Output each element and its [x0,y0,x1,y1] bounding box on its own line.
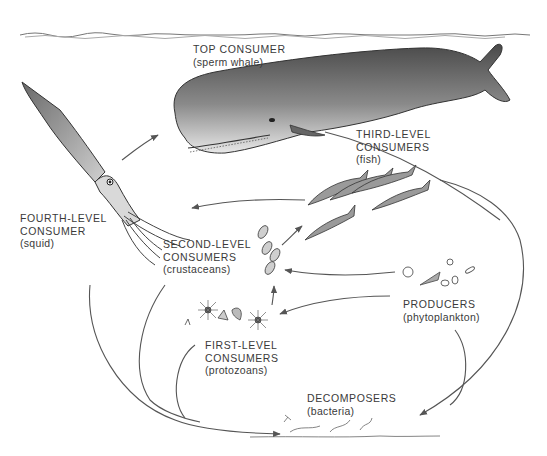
node-subtitle: (crustaceans) [163,263,251,276]
node-decomposers: DECOMPOSERS (bacteria) [307,392,396,417]
node-subtitle: (fish) [356,153,431,166]
node-second-level-consumers: SECOND-LEVEL CONSUMERS (crustaceans) [163,238,251,276]
node-title: DECOMPOSERS [307,392,396,405]
node-subtitle: (phytoplankton) [403,311,480,324]
energy-flow-arrows [90,132,524,434]
food-web-diagram: TOP CONSUMER (sperm whale) FOURTH-LEVEL … [0,0,547,456]
crustaceans-illustration [256,224,282,276]
node-title: SECOND-LEVEL [163,238,251,251]
node-title: THIRD-LEVEL [356,128,431,141]
node-title: CONSUMERS [356,141,431,154]
protozoans-illustration [185,300,268,330]
node-fourth-level-consumer: FOURTH-LEVEL CONSUMER (squid) [20,212,107,250]
node-producers: PRODUCERS (phytoplankton) [403,298,480,323]
node-title: CONSUMERS [163,251,251,264]
node-title: CONSUMER [20,225,107,238]
node-first-level-consumers: FIRST-LEVEL CONSUMERS (protozoans) [205,339,279,377]
node-subtitle: (protozoans) [205,364,279,377]
node-title: FOURTH-LEVEL [20,212,107,225]
node-subtitle: (squid) [20,237,107,250]
node-title: CONSUMERS [205,352,279,365]
node-top-consumer: TOP CONSUMER (sperm whale) [193,43,286,68]
node-subtitle: (sperm whale) [193,56,286,69]
node-third-level-consumers: THIRD-LEVEL CONSUMERS (fish) [356,128,431,166]
node-title: TOP CONSUMER [193,43,286,56]
fish-school-illustration [305,165,430,240]
node-title: PRODUCERS [403,298,480,311]
node-subtitle: (bacteria) [307,405,396,418]
phytoplankton-illustration [403,259,475,286]
sea-surface-waves [20,33,530,39]
node-title: FIRST-LEVEL [205,339,279,352]
